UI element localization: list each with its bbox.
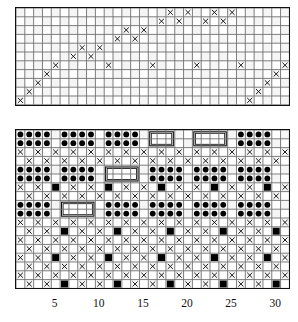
x-axis-tick-10: 10 [93,296,105,310]
x-axis-labels: 51015202530 [0,296,298,316]
upper-chart-panel [15,7,290,106]
x-axis-tick-15: 15 [137,296,149,310]
x-axis-tick-25: 25 [225,296,237,310]
x-axis-tick-30: 30 [269,296,281,310]
stitch-pattern-chart: 51015202530 [0,0,298,322]
x-axis-tick-20: 20 [181,296,193,310]
x-axis-tick-5: 5 [52,296,58,310]
lower-chart-panel [15,129,290,289]
